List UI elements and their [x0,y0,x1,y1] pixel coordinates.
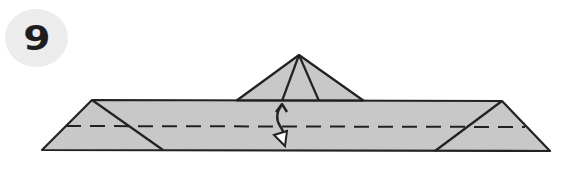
fold-diagram [0,0,575,177]
center-point-flap [236,55,364,101]
